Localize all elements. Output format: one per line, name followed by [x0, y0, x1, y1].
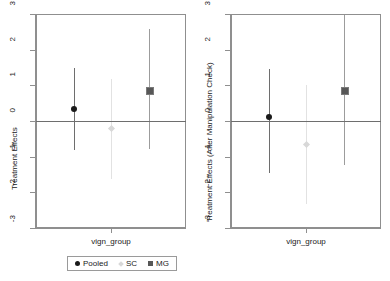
legend-item-mg: MG — [148, 260, 169, 268]
y-tick-label-right-2: 1 — [204, 72, 212, 98]
x-axis-label-left: vign_group — [36, 237, 186, 247]
y-tick-right-1 — [225, 50, 230, 51]
y-tick-label-left-4: -1 — [9, 144, 17, 170]
legend-label-sc: SC — [126, 260, 137, 268]
y-tick-label-right-1: 2 — [204, 37, 212, 63]
legend-marker-square-icon — [148, 261, 153, 266]
data-point-right-pooled — [266, 114, 272, 120]
x-tick-right — [306, 229, 307, 233]
legend-marker-diamond-icon — [118, 261, 124, 267]
y-tick-label-right-4: -1 — [204, 144, 212, 170]
y-tick-label-left-3: 0 — [9, 108, 17, 134]
y-tick-right-6 — [225, 228, 230, 229]
y-tick-right-5 — [225, 192, 230, 193]
y-tick-label-left-1: 2 — [9, 37, 17, 63]
y-tick-left-3 — [30, 121, 35, 122]
y-tick-label-right-5: -2 — [204, 179, 212, 205]
y-tick-right-2 — [225, 85, 230, 86]
y-tick-right-0 — [225, 14, 230, 15]
y-tick-label-left-5: -2 — [9, 179, 17, 205]
data-point-left-mg — [146, 87, 154, 95]
y-tick-left-2 — [30, 85, 35, 86]
x-tick-left — [111, 229, 112, 233]
legend-marker-circle-icon — [75, 261, 80, 266]
y-tick-left-1 — [30, 50, 35, 51]
chart-legend: Pooled SC MG — [67, 256, 177, 271]
y-tick-label-right-0: 3 — [204, 1, 212, 27]
zero-reference-line-left — [36, 121, 186, 122]
data-point-right-mg — [341, 87, 349, 95]
y-tick-label-right-3: 0 — [204, 108, 212, 134]
panel-left: Treatment Effects vign_group 3210-1-2-3 — [0, 0, 195, 246]
x-axis-label-right: vign_group — [231, 237, 381, 247]
data-point-left-pooled — [71, 106, 77, 112]
y-tick-left-6 — [30, 228, 35, 229]
y-tick-left-5 — [30, 192, 35, 193]
y-tick-left-4 — [30, 157, 35, 158]
y-tick-left-0 — [30, 14, 35, 15]
legend-label-pooled: Pooled — [83, 260, 108, 268]
y-tick-label-left-2: 1 — [9, 72, 17, 98]
legend-item-pooled: Pooled — [75, 260, 108, 268]
legend-label-mg: MG — [156, 260, 169, 268]
y-tick-right-4 — [225, 157, 230, 158]
y-tick-label-left-0: 3 — [9, 1, 17, 27]
zero-reference-line-right — [231, 121, 381, 122]
y-tick-label-right-6: -3 — [204, 215, 212, 241]
y-tick-label-left-6: -3 — [9, 215, 17, 241]
legend-item-sc: SC — [119, 260, 137, 268]
panel-right: Treatment Effects (After Manipulation Ch… — [195, 0, 390, 246]
y-tick-right-3 — [225, 121, 230, 122]
figure-root: Treatment Effects vign_group 3210-1-2-3 … — [0, 0, 390, 281]
